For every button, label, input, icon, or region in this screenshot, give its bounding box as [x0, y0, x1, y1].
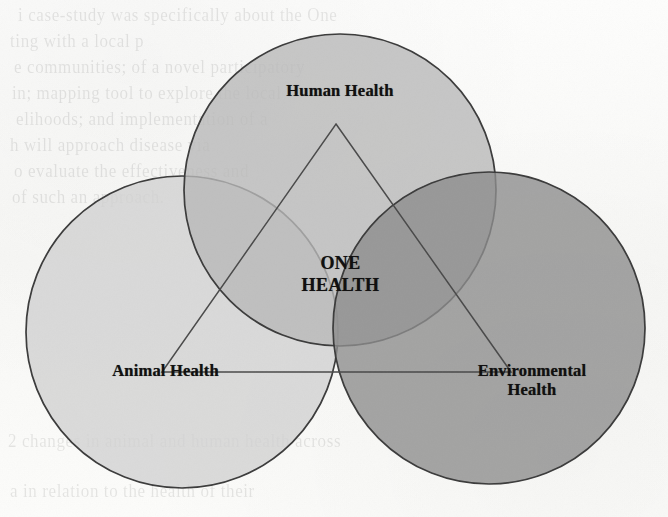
label-one-health-center: ONE HEALTH	[258, 253, 423, 296]
label-environmental-health: Environmental Health	[427, 362, 637, 400]
label-animal-health: Animal Health	[58, 362, 273, 381]
label-human-health: Human Health	[215, 82, 465, 101]
scanned-page: i case-study was specifically about the …	[0, 0, 668, 517]
